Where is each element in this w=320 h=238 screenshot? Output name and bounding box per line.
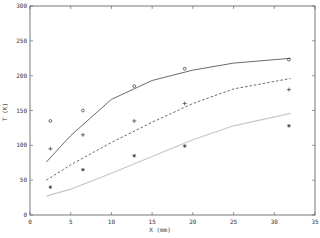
y-tick-label: 250 — [16, 37, 27, 44]
y-tick-label: 300 — [16, 2, 27, 9]
axes-box — [30, 6, 315, 215]
model-lines — [46, 58, 290, 196]
x-tick-label: 30 — [271, 218, 279, 225]
y-tick-label: 150 — [16, 107, 27, 114]
x-tick-label: 35 — [311, 218, 319, 225]
x-tick-label: 20 — [189, 218, 197, 225]
line-chart: 05101520253035050100150200250300 X (mm) … — [0, 0, 320, 238]
circle-marker — [133, 85, 136, 88]
y-axis-label: T (K) — [1, 103, 8, 121]
circle-marker — [82, 109, 85, 112]
y-tick-label: 50 — [20, 176, 28, 183]
x-tick-label: 25 — [230, 218, 238, 225]
x-tick-label: 0 — [28, 218, 32, 225]
x-axis-label: X (mm) — [149, 226, 171, 233]
x-tick-label: 5 — [69, 218, 73, 225]
y-tick-label: 0 — [23, 211, 27, 218]
y-tick-label: 100 — [16, 141, 27, 148]
plot-frame — [30, 6, 315, 215]
y-tick-label: 200 — [16, 72, 27, 79]
x-tick-label: 10 — [108, 218, 116, 225]
circle-marker — [183, 67, 186, 70]
line-dashed — [46, 79, 290, 181]
circle-marker — [49, 120, 52, 123]
line-solid — [46, 58, 290, 162]
line-solid-light — [46, 113, 290, 196]
x-tick-label: 15 — [149, 218, 157, 225]
